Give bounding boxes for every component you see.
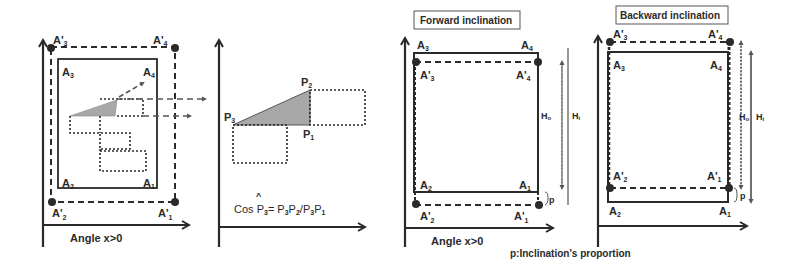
dotted-shape-lower — [70, 116, 146, 171]
h0-label: Ho — [541, 111, 552, 121]
panel-backward-inclination: Backward inclination Ho Hi p A'3 A'4 A3 … — [597, 6, 765, 247]
corner-dot-a1prime — [535, 201, 543, 209]
caption-inclination-proportion: p:Inclination's proportion — [510, 248, 631, 259]
label-a4prime: A'4 — [153, 34, 168, 47]
corner-dot-a4prime — [726, 38, 734, 46]
label-a4: A4 — [710, 59, 722, 72]
panel-rotation-angle: A'3 A'4 A3 A4 A2 A1 A'2 A'1 Angle x>0 — [42, 34, 205, 247]
label-a2prime: A'2 — [420, 210, 435, 224]
formula-hat: ^ — [256, 191, 262, 201]
label-a3prime: A'3 — [420, 69, 435, 82]
inclination-diagram: A'3 A'4 A3 A4 A2 A1 A'2 A'1 Angle x>0 P3… — [0, 0, 806, 270]
panel-title: Backward inclination — [620, 10, 720, 21]
label-a2: A2 — [609, 205, 621, 218]
label-a1: A1 — [143, 177, 155, 190]
label-a2prime: A'2 — [52, 207, 67, 221]
label-a3: A3 — [417, 39, 429, 52]
label-a1prime: A'1 — [158, 207, 173, 221]
shaded-triangle-p1p2p3 — [233, 90, 310, 125]
formula-cosine: Cos P3= P3P2/P3P1 — [234, 203, 326, 216]
corner-dot-a2prime — [606, 184, 614, 192]
dotted-rect-right — [310, 90, 365, 125]
label-a2: A2 — [62, 177, 74, 190]
panel-title: Forward inclination — [420, 15, 512, 26]
corner-dot-a2prime — [48, 198, 56, 206]
dotted-rect-below — [233, 125, 287, 163]
p-label: p — [740, 191, 746, 201]
label-a1prime: A'1 — [707, 170, 722, 183]
label-p3: P3 — [224, 111, 235, 124]
label-a4prime: A'4 — [708, 28, 723, 41]
p-bracket — [734, 188, 737, 202]
label-a4: A4 — [521, 39, 533, 52]
p-bracket — [545, 192, 548, 205]
label-a1: A1 — [519, 179, 531, 192]
label-a3prime: A'3 — [613, 28, 628, 41]
panel-cosine-triangle: P3 P2 P1 ^ Cos P3= P3P2/P3P1 — [218, 40, 365, 247]
label-a1: A1 — [719, 205, 731, 218]
diagonal-arrow — [119, 83, 143, 97]
label-p2: P2 — [301, 76, 312, 89]
corner-dot-a2prime — [412, 200, 420, 208]
corner-dot-a3prime — [412, 58, 420, 66]
corner-dot-a4prime — [534, 58, 542, 66]
panel-forward-inclination: Forward inclination Ho Hi p A3 A4 A'3 A'… — [404, 11, 581, 247]
label-a4prime: A'4 — [516, 69, 531, 82]
corner-dot-a1prime — [725, 184, 733, 192]
label-a2prime: A'2 — [613, 170, 628, 183]
label-a4: A4 — [143, 66, 155, 79]
h0-label: Ho — [739, 112, 750, 122]
label-a3: A3 — [62, 66, 74, 79]
label-a3prime: A'3 — [53, 34, 68, 47]
h1-label: Hi — [572, 111, 581, 121]
label-p1: P1 — [303, 128, 314, 141]
corner-dot-a4prime — [171, 44, 179, 52]
axis-label-angle: Angle x>0 — [70, 232, 122, 244]
p-label: p — [549, 195, 555, 205]
label-a1prime: A'1 — [514, 210, 529, 224]
label-a3: A3 — [613, 59, 625, 72]
shaded-triangle — [70, 100, 117, 116]
h1-label: Hi — [756, 112, 765, 122]
axis-label-angle: Angle x>0 — [431, 235, 483, 247]
corner-dot-a1prime — [171, 198, 179, 206]
label-a2: A2 — [420, 179, 432, 192]
